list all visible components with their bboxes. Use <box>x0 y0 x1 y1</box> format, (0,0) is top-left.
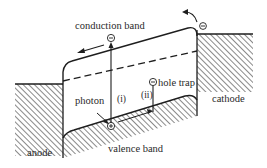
anode-label: anode <box>27 147 52 158</box>
electron-symbol-cathode <box>200 23 207 30</box>
hole-trap-symbol <box>149 78 156 85</box>
conduction-band-label: conduction band <box>75 20 145 31</box>
transition-ii-label: (ii) <box>141 90 153 101</box>
cathode-label: cathode <box>212 93 245 104</box>
photon-label: photon <box>75 95 105 106</box>
transition-i-label: (i) <box>117 94 126 105</box>
transition-i-arrow <box>109 42 114 124</box>
valence-band-label: valence band <box>108 143 164 154</box>
hole-trap-label: hole trap <box>158 77 195 88</box>
band-diagram: conduction band hole trap (i) (ii) photo… <box>0 0 267 168</box>
electron-symbol <box>107 34 114 41</box>
curved-arrow-icon <box>182 9 197 22</box>
electron-drift-arrow <box>77 45 104 53</box>
